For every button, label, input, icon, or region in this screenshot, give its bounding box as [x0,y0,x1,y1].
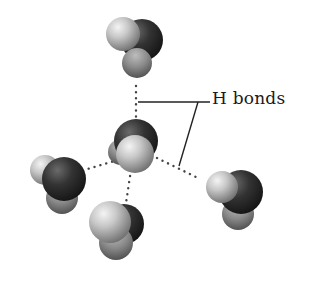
hydrogen-atom [116,135,154,173]
hbond-center-bottom [126,170,131,203]
water-molecule-center [108,119,158,173]
water-molecule-bottom [89,201,144,260]
oxygen-atom [42,157,86,201]
hbond-center-right [157,158,198,178]
hydrogen-atom [122,48,152,78]
water-molecule-right [206,170,263,230]
h-bonds-label: H bonds [212,88,285,108]
molecule-canvas [0,0,316,284]
hydrogen-atom [89,201,131,243]
leader-line-diagonal [179,102,198,166]
hydrogen-atom [106,17,140,51]
water-molecule-left [30,155,86,214]
water-hbond-diagram: H bonds [0,0,316,284]
water-molecule-top [106,17,163,78]
hydrogen-atom [206,171,238,203]
